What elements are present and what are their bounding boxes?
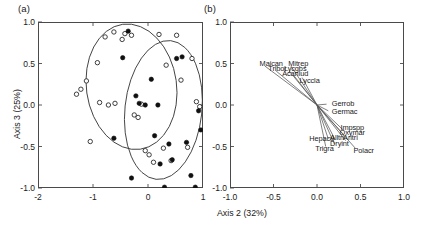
species-label: Polacr: [354, 146, 374, 155]
species-label: Trigra: [315, 144, 333, 153]
y-tick-label: -0.5: [203, 142, 227, 152]
y-axis-title: Axis 3 (25%): [12, 89, 22, 139]
x-tick-label: -1.0: [219, 192, 241, 202]
species-label: Lyccla: [300, 76, 320, 85]
panel-b-biplot: -1.0-0.50.00.51.0-1.0-0.50.00.51.0Maican…: [0, 0, 421, 240]
y-tick-label: 0.0: [203, 100, 227, 110]
x-axis-title: Axis 2 (32%): [217, 208, 267, 218]
x-tick-label: -0.5: [263, 192, 285, 202]
x-tick-label: 0.5: [350, 192, 372, 202]
x-tick-label: 0.0: [306, 192, 328, 202]
x-tick-label: 1.0: [393, 192, 415, 202]
figure-root: (a) (b) -2-101-1.0-0.50.00.51.0 -1.0-0.5…: [0, 0, 421, 240]
species-vector: [317, 104, 327, 105]
y-tick-label: 1.0: [203, 17, 227, 27]
y-tick-label: -1.0: [203, 183, 227, 193]
y-tick-label: 0.5: [203, 59, 227, 69]
species-label: Germac: [332, 107, 358, 116]
